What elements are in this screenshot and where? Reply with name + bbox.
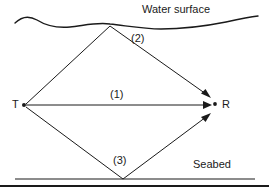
water-surface-line <box>15 16 258 29</box>
path-surface-arrowhead <box>201 89 211 98</box>
receiver-dot <box>213 102 217 106</box>
path-surface-label: (2) <box>131 33 144 44</box>
receiver-label: R <box>222 99 230 110</box>
figure-canvas: Water surface Seabed T R (1) (2) (3) <box>0 0 269 190</box>
path-direct-arrowhead <box>203 101 212 109</box>
transmitter-dot <box>22 103 26 107</box>
water-surface-label: Water surface <box>142 4 210 15</box>
path-direct-label: (1) <box>110 89 123 100</box>
path-bottom-downleg <box>26 107 123 179</box>
path-surface-upleg <box>26 26 110 104</box>
seabed-label: Seabed <box>193 159 231 170</box>
path-bottom-arrowhead <box>201 113 211 122</box>
path-surface-downleg <box>110 26 206 94</box>
transmitter-label: T <box>12 99 19 110</box>
path-bottom-label: (3) <box>113 155 126 166</box>
